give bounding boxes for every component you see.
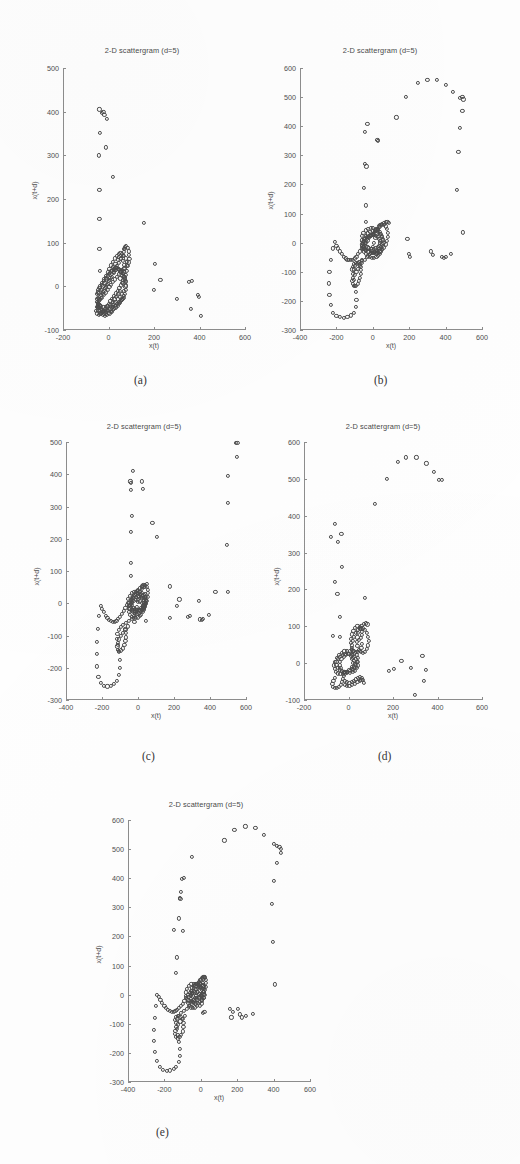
scatter-marker	[363, 220, 367, 224]
y-tick-label: 600	[274, 438, 300, 447]
scatter-marker	[96, 627, 100, 631]
y-tick	[63, 68, 66, 69]
y-tick	[66, 668, 69, 669]
scatter-marker	[327, 293, 331, 297]
scatter-marker	[189, 307, 193, 311]
scatter-marker	[132, 620, 136, 624]
y-tick	[66, 700, 69, 701]
y-tick	[63, 330, 66, 331]
scatter-marker	[175, 955, 179, 959]
scatter-marker	[95, 652, 99, 656]
plot-area-b: -300-200-1000100200300400500600-400-2000…	[300, 68, 482, 330]
scatter-marker	[131, 469, 135, 473]
scatter-marker	[129, 481, 133, 485]
y-tick	[300, 301, 303, 302]
x-tick-label: -200	[95, 703, 109, 712]
scatter-marker	[366, 639, 370, 643]
x-tick	[393, 697, 394, 700]
x-tick-label: -400	[293, 333, 307, 342]
y-tick-label: -100	[98, 1019, 124, 1028]
scatter-marker	[154, 1004, 158, 1008]
scatter-marker	[385, 477, 389, 481]
subplot-b: 2-D scattergram (d=5) x(t+d) -300-200-10…	[262, 46, 498, 346]
scatter-marker	[96, 675, 100, 679]
scatter-marker	[414, 455, 418, 459]
y-tick-label: 0	[270, 238, 296, 247]
scatter-marker	[244, 1014, 248, 1018]
scatter-marker	[152, 1028, 156, 1032]
x-axis-line	[66, 699, 246, 700]
y-tick-label: 300	[274, 548, 300, 557]
scatter-marker	[403, 95, 407, 99]
scatter-marker	[118, 658, 122, 662]
scatter-marker	[222, 838, 226, 842]
x-axis-label-c: x(t)	[66, 712, 246, 719]
y-tick-label: -200	[98, 1048, 124, 1057]
x-tick	[300, 327, 301, 330]
scatter-marker	[153, 262, 157, 266]
y-tick	[128, 878, 131, 879]
scatter-marker	[177, 916, 181, 920]
scatter-marker	[190, 855, 194, 859]
scatter-marker	[365, 647, 369, 651]
y-tick	[300, 243, 303, 244]
scatter-marker	[413, 693, 417, 697]
scatter-marker	[454, 188, 458, 192]
scatter-marker	[243, 824, 247, 828]
y-tick-label: -100	[270, 267, 296, 276]
y-tick-label: -200	[36, 663, 62, 672]
scatter-marker	[366, 635, 370, 639]
x-tick-label: 200	[148, 333, 160, 342]
scatter-marker	[174, 971, 178, 975]
y-tick-label: 500	[270, 93, 296, 102]
x-tick	[336, 327, 337, 330]
y-tick-label: 200	[36, 534, 62, 543]
y-tick	[300, 68, 303, 69]
scatter-marker	[253, 826, 257, 830]
x-tick	[409, 327, 410, 330]
scatter-marker	[461, 230, 465, 234]
scatter-marker	[140, 479, 144, 483]
scatter-marker	[353, 305, 357, 309]
scatter-marker	[363, 130, 367, 134]
scatter-marker	[336, 539, 340, 543]
scatter-marker	[279, 851, 283, 855]
y-tick	[63, 286, 66, 287]
scatter-marker	[372, 241, 376, 245]
scatter-marker	[451, 90, 455, 94]
scatter-marker	[129, 488, 133, 492]
y-tick	[304, 700, 307, 701]
x-tick	[128, 1079, 129, 1082]
scatter-marker	[333, 580, 337, 584]
x-tick	[373, 327, 374, 330]
scatter-marker	[153, 1050, 157, 1054]
scatter-marker	[327, 281, 331, 285]
y-tick	[66, 636, 69, 637]
y-tick	[128, 1024, 131, 1025]
scatter-marker	[358, 276, 362, 280]
scatter-marker	[124, 635, 128, 639]
scatter-marker	[327, 270, 331, 274]
x-tick	[245, 327, 246, 330]
scatter-marker	[199, 314, 203, 318]
y-tick-label: 100	[98, 961, 124, 970]
scatter-marker	[111, 175, 115, 179]
x-tick	[102, 697, 103, 700]
x-tick	[109, 327, 110, 330]
y-tick	[300, 184, 303, 185]
x-tick	[138, 697, 139, 700]
scatter-marker	[140, 487, 144, 491]
scatter-marker	[359, 268, 363, 272]
scatter-marker	[270, 902, 274, 906]
y-tick	[128, 995, 131, 996]
x-tick-label: 400	[204, 703, 216, 712]
scatter-marker	[129, 530, 133, 534]
scatter-marker	[181, 1025, 185, 1029]
scatter-marker	[201, 1011, 205, 1015]
y-tick-label: 400	[33, 107, 59, 116]
scatter-marker	[363, 595, 367, 599]
scatter-marker	[424, 461, 428, 465]
scatter-marker	[124, 631, 128, 635]
x-tick	[482, 697, 483, 700]
x-tick-label: -200	[157, 1085, 171, 1094]
